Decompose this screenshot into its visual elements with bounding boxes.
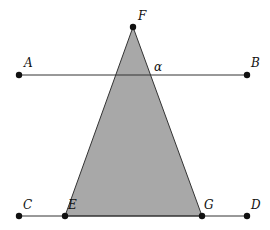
- point-a: [16, 72, 22, 78]
- geometry-diagram: A B C D E F G α: [0, 0, 270, 230]
- label-e: E: [67, 198, 77, 212]
- point-b: [244, 72, 250, 78]
- label-a: A: [23, 56, 33, 70]
- label-b: B: [250, 56, 260, 70]
- label-c: C: [23, 198, 32, 212]
- label-g: G: [204, 198, 214, 212]
- triangle-feg: [65, 27, 202, 216]
- label-f: F: [137, 9, 147, 23]
- point-f: [130, 24, 136, 30]
- point-c: [16, 213, 22, 219]
- label-d: D: [250, 198, 261, 212]
- angle-alpha-label: α: [154, 60, 162, 74]
- point-d: [244, 213, 250, 219]
- point-e: [62, 213, 68, 219]
- point-g: [199, 213, 205, 219]
